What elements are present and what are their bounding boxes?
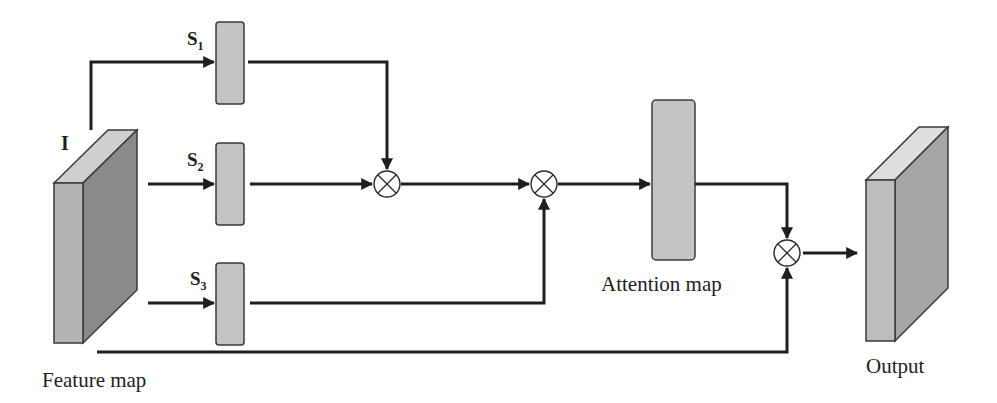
feature-map-block bbox=[54, 130, 137, 343]
edge-attention-to-mult3 bbox=[695, 184, 787, 238]
s2-block bbox=[216, 143, 244, 225]
edge-s1-to-mult1 bbox=[248, 62, 387, 169]
edge-input-to-s1 bbox=[91, 62, 214, 130]
output-block bbox=[866, 127, 948, 341]
s3-label: S3 bbox=[190, 268, 207, 293]
multiply-node-2 bbox=[531, 171, 557, 197]
attention-map-label: Attention map bbox=[601, 272, 722, 296]
attention-map-block bbox=[652, 100, 695, 260]
multiply-node-3 bbox=[774, 240, 800, 266]
s1-block bbox=[216, 22, 244, 104]
output-label: Output bbox=[866, 354, 925, 378]
feature-map-label: Feature map bbox=[42, 368, 146, 392]
s1-label: S1 bbox=[187, 28, 204, 53]
diagram-canvas: I Feature map S1 S2 S3 Attention map bbox=[0, 0, 997, 403]
s3-block bbox=[216, 263, 244, 345]
output-front-face bbox=[866, 180, 895, 341]
multiply-node-1 bbox=[374, 171, 400, 197]
s2-label: S2 bbox=[187, 149, 204, 174]
feature-map-front-face bbox=[54, 183, 83, 343]
edge-s3-to-mult2 bbox=[250, 199, 544, 303]
input-symbol-label: I bbox=[61, 132, 69, 154]
